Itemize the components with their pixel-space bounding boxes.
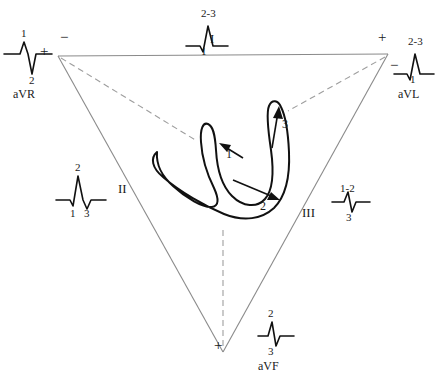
polarity-sign-lead-I-negative: −: [60, 30, 68, 45]
ecg-aVF-label-above-1: 2: [268, 308, 274, 319]
triangle-side-lead-I: [58, 54, 388, 56]
triangle-outline: [58, 54, 388, 352]
ecg-aVL-label-above-1: 2-3: [408, 36, 423, 47]
polarity-sign-aVL-negative: −: [390, 58, 398, 73]
vector-loop-path: [153, 101, 289, 218]
ecg-III-label-below-1: 3: [346, 212, 352, 223]
ecg-lead-name-aVL: aVL: [398, 88, 419, 100]
polarity-sign-aVF-positive: +: [214, 338, 222, 353]
dashed-line-from-right-arm: [288, 57, 385, 111]
dashed-projection-lines: [61, 57, 385, 349]
ecg-II-label-above-1: 2: [75, 162, 81, 173]
ecg-aVL-label-below-1: 1: [410, 74, 416, 85]
polarity-sign-lead-I-positive: +: [378, 30, 386, 45]
ecg-II-label-below-1: 1: [70, 208, 76, 219]
loop-arrow-label-1: 1: [226, 148, 232, 160]
ecg-II-label-below-2: 3: [84, 208, 90, 219]
ecg-aVR-label-below-1: 2: [29, 75, 35, 86]
qrs-vector-loop: [153, 101, 289, 218]
polarity-sign-aVR-positive: +: [40, 44, 48, 59]
lead-label-II: II: [118, 182, 127, 195]
dashed-line-from-left-arm: [61, 58, 197, 141]
ecg-trace-I: [186, 26, 228, 52]
triangle-side-lead-III: [223, 54, 388, 352]
loop-arrow-label-3: 3: [282, 118, 288, 130]
ecg-trace-II: [56, 176, 106, 209]
ecg-lead-name-aVF: aVF: [258, 360, 279, 372]
ecg-aVR-label-above-1: 1: [21, 28, 27, 39]
lead-label-I: I: [210, 32, 214, 45]
ecg-trace-III: [332, 192, 370, 212]
ecg-lead-name-aVR: aVR: [13, 88, 35, 100]
ecg-I-label-above-1: 2-3: [201, 8, 216, 19]
ecg-aVF-label-below-1: 3: [268, 346, 274, 357]
einthoven-triangle-diagram: [0, 0, 445, 379]
ecg-I-label-below-1: 1: [201, 46, 207, 57]
ecg-III-label-above-1: 1-2: [340, 183, 355, 194]
ecg-trace-aVF: [258, 322, 294, 346]
loop-arrow-label-2: 2: [260, 200, 266, 212]
lead-label-III: III: [302, 206, 315, 219]
